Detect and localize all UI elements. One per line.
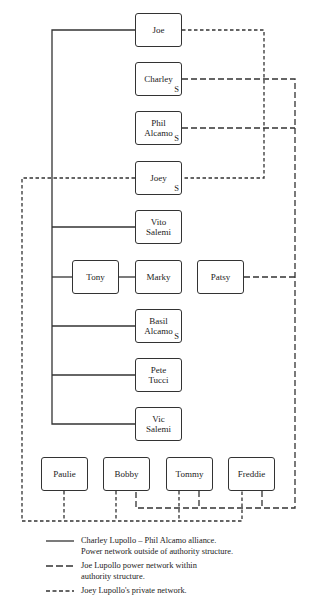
legend-item-long-dash: Joe Lupollo power network within authori…	[46, 561, 276, 582]
node-label: Charley	[144, 74, 173, 85]
node-joey: JoeyS	[135, 161, 182, 195]
node-label: Tony	[86, 272, 104, 283]
legend-item-solid: Charley Lupollo – Phil Alcamo alliance. …	[46, 536, 276, 557]
node-paulie: Paulie	[41, 457, 88, 491]
node-s-marker: S	[174, 331, 179, 342]
node-label: Marky	[147, 272, 171, 283]
node-marky: Marky	[135, 260, 182, 294]
node-vic: Vic Salemi	[135, 407, 182, 441]
node-label: Vito Salemi	[146, 217, 171, 238]
node-s-marker: S	[174, 133, 179, 144]
node-label: Vic Salemi	[146, 414, 171, 435]
short-dash-edge	[182, 30, 264, 178]
node-label: Freddie	[238, 469, 266, 480]
node-label: Tommy	[176, 469, 204, 480]
node-label: Pete Tucci	[148, 365, 168, 386]
node-bobby: Bobby	[103, 457, 150, 491]
legend-item-short-dash: Joey Lupollo's private network.	[46, 586, 276, 597]
node-label: Paulie	[53, 469, 76, 480]
node-charley: CharleyS	[135, 62, 182, 96]
node-s-marker: S	[174, 183, 179, 194]
node-label: Bobby	[114, 469, 138, 480]
node-joe: Joe	[135, 13, 182, 47]
node-label: Joe	[153, 25, 165, 36]
solid-line-icon	[46, 539, 74, 543]
node-vito: Vito Salemi	[135, 210, 182, 244]
node-patsy: Patsy	[197, 260, 244, 294]
node-tommy: Tommy	[166, 457, 213, 491]
node-label: Basil Alcamo	[144, 316, 173, 337]
node-label: Patsy	[211, 272, 231, 283]
legend-text: Joe Lupollo power network within authori…	[81, 561, 197, 581]
node-tony: Tony	[72, 260, 119, 294]
node-freddie: Freddie	[228, 457, 275, 491]
long-dash-line-icon	[46, 564, 74, 568]
legend-text: Joey Lupollo's private network.	[81, 586, 187, 595]
node-basil: Basil AlcamoS	[135, 309, 182, 343]
node-label: Joey	[150, 173, 167, 184]
short-dash-line-icon	[46, 589, 74, 593]
legend: Charley Lupollo – Phil Alcamo alliance. …	[46, 536, 276, 601]
node-s-marker: S	[174, 84, 179, 95]
node-phil: Phil AlcamoS	[135, 111, 182, 145]
node-label: Phil Alcamo	[144, 118, 173, 139]
legend-text: Charley Lupollo – Phil Alcamo alliance. …	[81, 536, 233, 556]
node-pete: Pete Tucci	[135, 358, 182, 392]
